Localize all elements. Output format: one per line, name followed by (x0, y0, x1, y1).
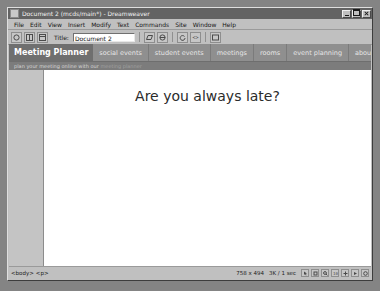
close-button[interactable] (362, 10, 371, 18)
site-brand[interactable]: Meeting Planner (9, 44, 93, 61)
status-bar: <body> <p> 758 x 494 3K / 1 sec 10 (9, 266, 371, 279)
tagline-rest: meeting planner (100, 63, 141, 69)
menu-bar: File Edit View Insert Modify Text Comman… (8, 19, 372, 30)
refresh-design-view-icon[interactable] (177, 32, 188, 43)
tag-chip-body[interactable]: <body> (11, 270, 34, 276)
menu-item-commands[interactable]: Commands (132, 21, 172, 28)
status-icon-group: 10 (301, 269, 369, 277)
visual-aids-icon[interactable] (210, 32, 221, 43)
tag-selector[interactable]: <body> <p> (11, 270, 231, 276)
select-tool-icon[interactable] (301, 269, 309, 277)
dreamweaver-icon (10, 9, 19, 18)
window-title: Document 2 (mcds/main*) - Dreamweaver (22, 10, 341, 17)
web-page-preview: Meeting Planner social events student ev… (9, 44, 371, 266)
svg-text:10: 10 (333, 271, 338, 276)
menu-item-help[interactable]: Help (219, 21, 239, 28)
menu-item-file[interactable]: File (11, 21, 27, 28)
window-title-bar[interactable]: Document 2 (mcds/main*) - Dreamweaver (8, 8, 372, 19)
hand-tool-icon[interactable] (311, 269, 319, 277)
toolbar-separator-1 (139, 32, 140, 42)
document-toolbar: Title: Document 2 <> (8, 30, 372, 45)
minimize-button[interactable] (342, 10, 351, 18)
nav-item-about-us[interactable]: about us (349, 44, 371, 61)
code-view-button[interactable] (11, 32, 22, 43)
nav-item-meetings[interactable]: meetings (211, 44, 254, 61)
split-view-button[interactable] (24, 32, 35, 43)
site-navigation-bar: Meeting Planner social events student ev… (9, 44, 371, 62)
menu-item-site[interactable]: Site (172, 21, 190, 28)
page-content-column[interactable]: Are you always late? (44, 70, 371, 266)
download-size-indicator: 3K / 1 sec (269, 270, 296, 276)
view-options-icon[interactable]: <> (190, 32, 201, 43)
svg-text:<>: <> (192, 34, 198, 40)
ruler-icon[interactable] (351, 269, 359, 277)
nav-item-rooms[interactable]: rooms (254, 44, 287, 61)
tagline-lead: plan your meeting online with our (14, 63, 99, 69)
tag-chip-p[interactable]: <p> (36, 270, 49, 276)
design-view-button[interactable] (37, 32, 48, 43)
desktop-background: Document 2 (mcds/main*) - Dreamweaver Fi… (0, 0, 380, 291)
nav-item-event-planning[interactable]: event planning (287, 44, 349, 61)
title-field-label: Title: (54, 34, 69, 41)
menu-item-window[interactable]: Window (190, 21, 220, 28)
page-headline: Are you always late? (44, 88, 371, 104)
page-body: Are you always late? (9, 70, 371, 266)
file-management-icon[interactable] (144, 32, 155, 43)
maximize-button[interactable] (352, 10, 361, 18)
menu-item-view[interactable]: View (45, 21, 65, 28)
zoom-level-icon[interactable]: 10 (331, 269, 339, 277)
dreamweaver-window: Document 2 (mcds/main*) - Dreamweaver Fi… (7, 7, 373, 281)
window-size-icon[interactable] (361, 269, 369, 277)
menu-item-text[interactable]: Text (114, 21, 132, 28)
zoom-tool-icon[interactable] (321, 269, 329, 277)
document-canvas[interactable]: Meeting Planner social events student ev… (9, 44, 371, 266)
menu-item-edit[interactable]: Edit (27, 21, 45, 28)
document-title-input[interactable]: Document 2 (73, 33, 135, 42)
menu-item-insert[interactable]: Insert (65, 21, 88, 28)
page-sidebar-column (9, 70, 44, 266)
nav-item-social-events[interactable]: social events (93, 44, 149, 61)
preview-in-browser-icon[interactable] (157, 32, 168, 43)
menu-item-modify[interactable]: Modify (88, 21, 114, 28)
guides-icon[interactable] (341, 269, 349, 277)
window-size-indicator[interactable]: 758 x 494 (236, 270, 264, 276)
toolbar-separator-2 (172, 32, 173, 42)
nav-item-student-events[interactable]: student events (149, 44, 211, 61)
toolbar-separator-3 (205, 32, 206, 42)
